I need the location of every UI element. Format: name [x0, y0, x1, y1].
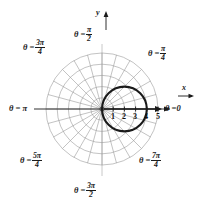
- theta-eq-text: θ =: [74, 185, 85, 195]
- theta-label-5pi-over-4: θ =5π4: [20, 152, 43, 169]
- x-label-arrowhead: [189, 94, 195, 99]
- theta-eq-text: θ =: [139, 155, 150, 165]
- axes: [34, 11, 194, 176]
- fraction-pi-over-2: π2: [86, 26, 92, 43]
- theta-eq-text: θ =: [9, 103, 20, 113]
- theta-eq-text: θ =: [148, 48, 159, 58]
- theta-label-pi-over-2: θ =π2: [74, 26, 93, 43]
- theta-label-zero: θ =0: [165, 104, 181, 113]
- theta-label-3pi-over-4: θ =3π4: [23, 39, 46, 56]
- x-tick-label-2: 2: [122, 113, 126, 121]
- y-axis-label: y: [96, 9, 100, 17]
- theta-value-zero: 0: [176, 103, 180, 113]
- x-tick-label-3: 3: [133, 113, 137, 121]
- theta-label-7pi-over-4: θ =7π4: [139, 152, 162, 169]
- theta-eq-text: θ =: [165, 103, 176, 113]
- theta-eq-text: θ =: [74, 29, 85, 39]
- x-tick-label-5: 5: [156, 113, 160, 121]
- theta-label-pi: θ = π: [9, 104, 27, 113]
- y-label-arrowhead: [104, 11, 109, 17]
- fraction-5pi-over-4: 5π4: [32, 152, 42, 169]
- polar-plot-figure: y x θ =π2 θ =3π4 θ =π4 θ = π θ =0 θ =5π4…: [0, 0, 205, 209]
- theta-eq-text: θ =: [20, 155, 31, 165]
- fraction-pi-over-4: π4: [160, 45, 166, 62]
- theta-label-3pi-over-2: θ =3π2: [74, 182, 97, 199]
- theta-eq-text: θ =: [23, 42, 34, 52]
- fraction-3pi-over-4: 3π4: [35, 39, 45, 56]
- theta-label-pi-over-4: θ =π4: [148, 45, 167, 62]
- fraction-3pi-over-2: 3π2: [86, 182, 96, 199]
- x-axis-label: x: [182, 84, 186, 92]
- x-tick-label-4: 4: [144, 113, 148, 121]
- theta-value-pi: π: [23, 103, 28, 113]
- x-tick-label-1: 1: [111, 113, 115, 121]
- fraction-7pi-over-4: 7π4: [151, 152, 161, 169]
